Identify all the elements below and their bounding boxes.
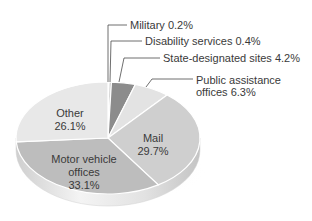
label-mail-value: 29.7% bbox=[137, 145, 168, 157]
leader-state bbox=[119, 58, 160, 82]
pie-chart: Military 0.2% Disability services 0.4% S… bbox=[0, 0, 312, 221]
label-public-assistance-2: offices 6.3% bbox=[196, 86, 256, 98]
label-state-designated: State-designated sites 4.2% bbox=[163, 52, 300, 64]
pie-slices bbox=[16, 82, 200, 194]
label-motor-value: 33.1% bbox=[68, 179, 99, 191]
label-military: Military 0.2% bbox=[130, 19, 193, 31]
label-public-assistance-1: Public assistance bbox=[196, 74, 281, 86]
label-mail-name: Mail bbox=[143, 132, 163, 144]
label-other-value: 26.1% bbox=[54, 120, 85, 132]
label-disability: Disability services 0.4% bbox=[145, 35, 261, 47]
label-other-name: Other bbox=[56, 107, 84, 119]
leader-public bbox=[146, 79, 193, 87]
label-motor-1: Motor vehicle bbox=[51, 153, 116, 165]
leader-disability bbox=[110, 41, 142, 82]
label-motor-2: offices bbox=[68, 166, 100, 178]
